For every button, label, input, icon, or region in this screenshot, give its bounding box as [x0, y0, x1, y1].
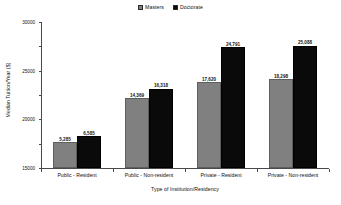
bar-doctorate-3[interactable]: 25,088 [293, 46, 317, 168]
y-tick-mark: 15000 [39, 95, 42, 96]
bar-doctorate-2[interactable]: 24,791 [221, 47, 245, 168]
legend-label-doctorate: Doctorate [180, 4, 203, 10]
bar-value-label: 24,791 [226, 42, 240, 47]
bar-value-label: 17,620 [202, 77, 216, 82]
bar-value-label: 25,088 [298, 40, 312, 45]
bar-value-label: 14,369 [130, 93, 144, 98]
bar-group: 5,2856,585 [53, 22, 101, 168]
y-tick-label: 30000 [22, 20, 35, 25]
bar-value-label: 5,285 [59, 137, 71, 142]
bar-masters-1[interactable]: 14,369 [125, 98, 149, 168]
bar-doctorate-1[interactable]: 16,318 [149, 89, 173, 169]
bar-chart: Masters Doctorate Median Tuition/Year ($… [0, 0, 341, 205]
x-tick-mark [41, 169, 42, 172]
y-tick-mark: 30000 [39, 22, 42, 23]
y-tick-label: 25000 [22, 68, 35, 73]
legend-swatch-masters [138, 5, 143, 10]
bar-masters-2[interactable]: 17,620 [197, 82, 221, 168]
x-category-label: Public - Resident [57, 172, 96, 179]
x-category-label: Public - Non-resident [125, 172, 173, 179]
x-axis-title: Type of Institution/Residency [41, 186, 329, 193]
bar-value-label: 16,318 [154, 83, 168, 88]
y-tick-mark: 5000 [39, 144, 42, 145]
x-tick-mark [113, 169, 114, 172]
y-axis-line [41, 22, 42, 169]
legend-item-masters: Masters [138, 4, 164, 10]
x-category-label: Private - Non-resident [268, 172, 318, 179]
legend-item-doctorate: Doctorate [173, 4, 203, 10]
x-tick-mark [185, 169, 186, 172]
bar-group: 14,36916,318 [125, 22, 173, 168]
x-tick-mark [257, 169, 258, 172]
y-tick-mark: 20000 [39, 71, 42, 72]
y-axis-title: Median Tuition/Year ($) [4, 42, 13, 138]
bar-value-label: 18,298 [274, 74, 288, 79]
bar-doctorate-0[interactable]: 6,585 [77, 136, 101, 168]
bar-group: 18,29825,088 [269, 22, 317, 168]
chart-legend: Masters Doctorate [0, 4, 341, 10]
bar-group: 17,62024,791 [197, 22, 245, 168]
y-tick-label: 20000 [22, 117, 35, 122]
y-tick-mark: 25000 [39, 46, 42, 47]
legend-swatch-doctorate [173, 5, 178, 10]
bar-masters-3[interactable]: 18,298 [269, 79, 293, 168]
plot-area: 050001000015000200002500030000 5,2856,58… [41, 22, 329, 169]
x-category-label: Private - Resident [200, 172, 241, 179]
bar-masters-0[interactable]: 5,285 [53, 142, 77, 168]
bar-value-label: 6,585 [83, 131, 95, 136]
x-tick-mark [329, 169, 330, 172]
y-tick-mark: 10000 [39, 119, 42, 120]
legend-label-masters: Masters [145, 4, 164, 10]
y-tick-label: 15000 [22, 166, 35, 171]
